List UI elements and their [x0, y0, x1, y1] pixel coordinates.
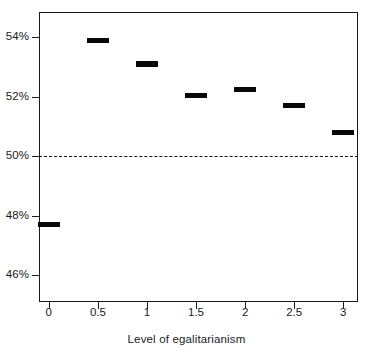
y-axis-tick: [32, 275, 39, 276]
data-point-marker: [234, 87, 256, 93]
x-axis-tick-label: 2.5: [274, 307, 314, 319]
x-axis-tick-label: 0.5: [78, 307, 118, 319]
x-axis-tick-label: 1: [127, 307, 167, 319]
chart-container: Level of egalitarianism 54%52%50%48%46%0…: [0, 0, 373, 362]
y-axis-tick-label: 52%: [6, 91, 29, 103]
x-axis-tick-label: 3: [323, 307, 363, 319]
data-point-marker: [136, 61, 158, 67]
x-axis-tick-label: 2: [225, 307, 265, 319]
reference-line-50-percent: [39, 156, 358, 157]
y-axis-tick-label: 54%: [6, 31, 29, 43]
y-axis-tick: [32, 216, 39, 217]
data-point-marker: [38, 222, 60, 228]
y-axis-tick-label: 48%: [6, 210, 29, 222]
y-axis-tick-label: 50%: [6, 150, 29, 162]
y-axis-tick: [32, 97, 39, 98]
plot-area: [39, 12, 358, 302]
y-axis-tick-label: 46%: [6, 269, 29, 281]
y-axis-tick: [32, 37, 39, 38]
x-axis-tick-label: 0: [29, 307, 69, 319]
data-point-marker: [185, 93, 207, 99]
y-axis-tick: [32, 156, 39, 157]
data-point-marker: [332, 130, 354, 136]
data-point-marker: [87, 38, 109, 44]
x-axis-tick-label: 1.5: [176, 307, 216, 319]
x-axis-title: Level of egalitarianism: [0, 333, 373, 345]
data-point-marker: [283, 103, 305, 109]
